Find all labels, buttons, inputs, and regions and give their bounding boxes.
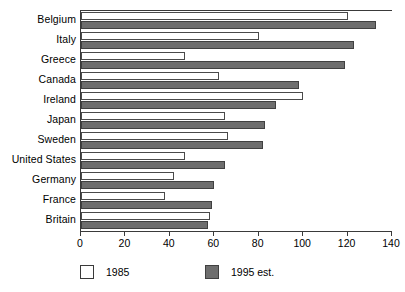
bar-1985 — [81, 72, 219, 80]
legend-item-1985: 1985 — [80, 262, 129, 282]
bar-1995 — [81, 121, 265, 129]
x-axis-tick-label: 80 — [238, 238, 278, 249]
category-label: Japan — [0, 114, 76, 125]
x-axis-tick — [213, 232, 214, 236]
bar-chart: BelgiumItalyGreeceCanadaIrelandJapanSwed… — [0, 0, 405, 292]
x-axis-tick-label: 140 — [371, 238, 405, 249]
x-axis-tick — [124, 232, 125, 236]
legend-swatch-1995 — [205, 265, 219, 279]
x-axis-tick — [258, 232, 259, 236]
legend-label-1985: 1985 — [106, 266, 129, 278]
bar-1995 — [81, 61, 345, 69]
x-axis-tick-label: 40 — [149, 238, 189, 249]
legend-swatch-1985 — [80, 265, 94, 279]
x-axis-tick-label: 120 — [327, 238, 367, 249]
x-axis-tick — [80, 232, 81, 236]
legend-label-1995: 1995 est. — [231, 266, 274, 278]
bar-1985 — [81, 92, 303, 100]
category-label: United States — [0, 154, 76, 165]
x-axis-tick-label: 60 — [193, 238, 233, 249]
x-axis-tick — [347, 232, 348, 236]
category-label: Italy — [0, 34, 76, 45]
bar-1985 — [81, 132, 228, 140]
bar-1995 — [81, 41, 354, 49]
bar-1995 — [81, 141, 263, 149]
bar-1985 — [81, 32, 259, 40]
category-axis-labels: BelgiumItalyGreeceCanadaIrelandJapanSwed… — [0, 10, 76, 232]
bar-1995 — [81, 21, 376, 29]
bar-1995 — [81, 221, 208, 229]
category-label: Sweden — [0, 134, 76, 145]
bar-1995 — [81, 181, 214, 189]
x-axis-tick-label: 20 — [104, 238, 144, 249]
bar-1985 — [81, 212, 210, 220]
bar-1985 — [81, 12, 348, 20]
x-axis-tick — [169, 232, 170, 236]
bar-1985 — [81, 52, 185, 60]
bar-1995 — [81, 201, 212, 209]
category-label: Ireland — [0, 94, 76, 105]
bar-1995 — [81, 161, 225, 169]
x-axis-tick — [391, 232, 392, 236]
category-label: France — [0, 194, 76, 205]
legend-item-1995: 1995 est. — [205, 262, 274, 282]
bar-1985 — [81, 172, 174, 180]
bar-1995 — [81, 101, 276, 109]
category-label: Greece — [0, 54, 76, 65]
category-label: Canada — [0, 74, 76, 85]
x-axis-tick-label: 100 — [282, 238, 322, 249]
x-axis-tick-label: 0 — [60, 238, 100, 249]
x-axis-line — [80, 231, 392, 232]
category-label: Britain — [0, 214, 76, 225]
bar-1985 — [81, 152, 185, 160]
category-label: Germany — [0, 174, 76, 185]
bar-1985 — [81, 112, 225, 120]
bar-1985 — [81, 192, 165, 200]
category-label: Belgium — [0, 14, 76, 25]
bar-1995 — [81, 81, 299, 89]
x-axis-tick — [302, 232, 303, 236]
bars-layer — [81, 11, 392, 231]
